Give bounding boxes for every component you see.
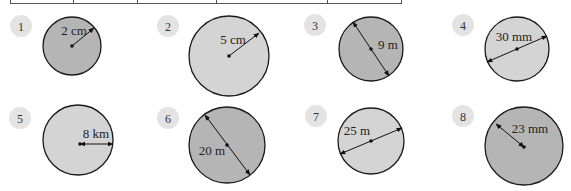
problem-3: 3 9 m [304, 14, 403, 81]
measure-label: 8 km [83, 126, 109, 141]
problem-number: 5 [17, 112, 23, 126]
problem-6: 6 20 m [157, 107, 265, 183]
problem-1: 1 2 cm [10, 15, 101, 75]
measure-label: 2 cm [61, 23, 87, 38]
measure-label: 23 mm [512, 121, 548, 136]
measure-label: 9 m [378, 37, 398, 52]
problem-number: 7 [313, 110, 319, 124]
measure-label: 20 m [199, 143, 225, 158]
problem-number: 1 [18, 20, 24, 34]
problem-8: 8 23 mm [452, 105, 563, 185]
measure-label: 30 mm [496, 29, 532, 44]
measure-label: 25 m [344, 123, 370, 138]
problem-number: 4 [460, 19, 466, 33]
problem-5: 5 8 km [9, 105, 113, 175]
measure-label: 5 cm [220, 32, 246, 47]
problem-2: 2 5 cm [157, 15, 269, 96]
problem-number: 3 [312, 19, 318, 33]
problem-number: 2 [165, 20, 171, 34]
problem-7: 7 25 m [305, 105, 404, 174]
problem-number: 6 [165, 112, 171, 126]
problem-number: 8 [460, 110, 466, 124]
circles-diagram: 1 2 cm 2 5 cm 3 9 m 4 30 mm 5 [0, 0, 571, 191]
problem-4: 4 30 mm [452, 14, 549, 81]
table-fragment [10, 0, 402, 4]
